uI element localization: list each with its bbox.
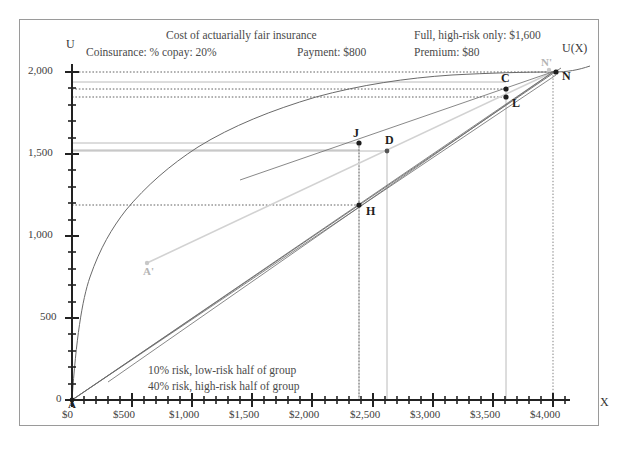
point-marker-h[interactable] <box>356 202 361 207</box>
header-premium: Premium: $80 <box>414 47 480 59</box>
figure-root: Cost of actuarially fair insurance Coins… <box>0 0 619 461</box>
secant-h-n <box>108 70 556 382</box>
x-tick-label-500: $500 <box>113 409 135 420</box>
x-tick-label-0: $0 <box>62 409 73 420</box>
header-title: Cost of actuarially fair insurance <box>166 30 317 42</box>
y-tick-label-2000: 2,000 <box>28 65 53 76</box>
point-marker-j[interactable] <box>356 140 361 145</box>
header-payment: Payment: $800 <box>297 47 366 59</box>
x-tick-label-3000: $3,000 <box>410 409 440 420</box>
y-tick-label-1000: 1,000 <box>28 229 53 240</box>
secant-j-n <box>240 70 558 180</box>
point-marker-n[interactable] <box>553 69 558 74</box>
chart-canvas <box>0 0 619 461</box>
y-axis-title: U <box>66 38 75 50</box>
point-label-n-prime: N' <box>541 57 552 68</box>
point-label-l: L <box>512 97 520 109</box>
chord-a-c <box>72 75 556 400</box>
x-tick-label-2500: $2,500 <box>350 409 380 420</box>
note-high-risk: 40% risk, high-risk half of group <box>148 381 299 393</box>
point-label-a-prime: A' <box>143 266 154 277</box>
x-axis-title: X <box>600 396 609 408</box>
secant-a-h-n <box>72 72 553 400</box>
header-coinsurance: Coinsurance: % copay: 20% <box>86 47 217 59</box>
faint-chord-line <box>147 72 553 263</box>
point-marker-l[interactable] <box>503 94 508 99</box>
x-tick-label-3500: $3,500 <box>470 409 500 420</box>
point-label-h: H <box>366 205 375 217</box>
horizontal-gray-lines <box>72 82 506 151</box>
point-marker-n-prime[interactable] <box>547 68 551 72</box>
point-label-j: J <box>353 127 359 139</box>
y-tick-label-1500: 1,500 <box>28 147 53 158</box>
point-marker-c[interactable] <box>503 86 508 91</box>
point-label-c: C <box>501 72 510 84</box>
y-tick-label-0: 0 <box>56 393 62 404</box>
vertical-drop-lines <box>359 72 553 400</box>
utility-curve <box>72 66 590 400</box>
point-label-d: D <box>385 134 394 146</box>
curve-label-ux: U(X) <box>562 42 587 54</box>
x-tick-label-4000: $4,000 <box>530 409 560 420</box>
x-tick-label-1500: $1,500 <box>229 409 259 420</box>
header-full-high-risk: Full, high-risk only: $1,600 <box>414 30 541 42</box>
x-tick-label-1000: $1,000 <box>169 409 199 420</box>
point-label-a: A <box>68 399 76 410</box>
note-low-risk: 10% risk, low-risk half of group <box>148 365 296 377</box>
x-tick-label-2000: $2,000 <box>289 409 319 420</box>
point-label-n: N <box>562 70 571 82</box>
y-tick-label-500: 500 <box>40 311 57 322</box>
point-marker-d[interactable] <box>385 149 390 154</box>
